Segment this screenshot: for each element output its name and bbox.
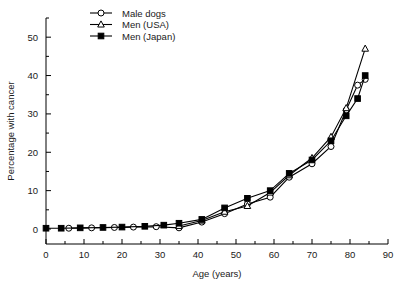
data-point-marker xyxy=(199,217,205,223)
y-axis-ticks xyxy=(46,18,51,229)
x-tick-label: 40 xyxy=(193,249,204,260)
data-series-group xyxy=(43,45,368,231)
x-axis-title: Age (years) xyxy=(192,268,241,279)
series-men-japan xyxy=(43,73,368,231)
series-men-usa xyxy=(176,45,369,228)
data-point-marker xyxy=(119,224,125,230)
y-tick-label: 30 xyxy=(27,108,38,119)
x-tick-label: 90 xyxy=(383,249,394,260)
x-tick-label: 60 xyxy=(269,249,280,260)
data-point-marker xyxy=(142,224,148,230)
x-tick-label: 0 xyxy=(43,249,48,260)
data-point-marker xyxy=(362,45,369,51)
legend-entry: Men (USA) xyxy=(90,19,169,30)
chart-legend: Male dogsMen (USA)Men (Japan) xyxy=(90,8,175,42)
data-point-marker xyxy=(328,144,334,150)
x-axis-ticks xyxy=(46,239,388,244)
data-point-marker xyxy=(176,220,182,226)
data-point-marker xyxy=(355,96,361,102)
y-axis-tick-labels: 01020304050 xyxy=(27,32,38,235)
x-tick-label: 80 xyxy=(345,249,356,260)
y-axis-title: Percentage with cancer xyxy=(5,81,16,180)
data-point-marker xyxy=(43,225,49,231)
data-point-marker xyxy=(267,188,273,194)
data-point-marker xyxy=(245,196,251,202)
legend-label: Men (Japan) xyxy=(122,31,175,42)
data-point-marker xyxy=(309,157,315,163)
data-point-marker xyxy=(58,225,64,231)
y-tick-label: 20 xyxy=(27,147,38,158)
x-tick-label: 30 xyxy=(155,249,166,260)
legend-entry: Male dogs xyxy=(90,8,166,19)
data-point-marker xyxy=(328,138,334,144)
data-point-marker xyxy=(77,225,83,231)
chart-figure: 01020304050 0102030405060708090 Percenta… xyxy=(0,0,402,284)
data-point-marker xyxy=(161,222,167,228)
y-tick-label: 0 xyxy=(33,224,38,235)
data-point-marker xyxy=(362,73,368,79)
legend-entry: Men (Japan) xyxy=(90,31,175,42)
cancer-incidence-line-chart: 01020304050 0102030405060708090 Percenta… xyxy=(0,0,402,284)
data-point-marker xyxy=(153,224,159,230)
legend-marker-icon xyxy=(98,33,104,39)
x-tick-label: 70 xyxy=(307,249,318,260)
x-tick-label: 10 xyxy=(79,249,90,260)
legend-marker-icon xyxy=(98,10,104,16)
legend-label: Male dogs xyxy=(122,8,166,19)
y-tick-label: 10 xyxy=(27,185,38,196)
legend-label: Men (USA) xyxy=(122,19,169,30)
x-tick-label: 50 xyxy=(231,249,242,260)
data-point-marker xyxy=(286,171,292,177)
series-male-dogs xyxy=(66,76,368,231)
data-point-marker xyxy=(355,82,361,88)
series-line xyxy=(69,79,365,228)
data-point-marker xyxy=(222,205,228,211)
data-point-marker xyxy=(343,113,349,119)
y-tick-label: 50 xyxy=(27,32,38,43)
x-tick-label: 20 xyxy=(117,249,128,260)
data-point-marker xyxy=(100,225,106,231)
x-axis-tick-labels: 0102030405060708090 xyxy=(43,249,393,260)
y-tick-label: 40 xyxy=(27,70,38,81)
axes: 01020304050 0102030405060708090 xyxy=(27,18,393,260)
